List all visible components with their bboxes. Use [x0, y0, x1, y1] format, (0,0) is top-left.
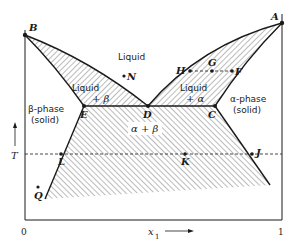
- x-arrow-icon: [188, 229, 194, 233]
- label-liquid-alpha-1: Liquid: [180, 83, 207, 93]
- label-A: A: [270, 11, 279, 22]
- x-max-label: 1: [278, 227, 284, 237]
- phase-diagram: B A E D C H G F L K J N Q Liquid Liquid …: [0, 0, 298, 250]
- point-A: [280, 21, 284, 25]
- label-beta-phase-2: (solid): [31, 115, 59, 125]
- label-H: H: [175, 65, 186, 76]
- label-E: E: [79, 109, 88, 120]
- x-min-label: 0: [21, 227, 27, 237]
- label-alpha-phase-1: α-phase: [230, 94, 267, 104]
- label-alpha-beta: α + β: [131, 123, 158, 134]
- x-axis-subscript: 1: [155, 233, 159, 241]
- label-liquid: Liquid: [118, 52, 145, 62]
- label-Q: Q: [34, 190, 43, 201]
- label-J: J: [254, 147, 262, 158]
- point-D: [146, 104, 150, 108]
- point-E: [82, 104, 86, 108]
- point-F: [230, 69, 234, 73]
- point-Q: [36, 185, 39, 188]
- label-alpha-phase-2: (solid): [233, 105, 261, 115]
- label-B: B: [28, 22, 37, 33]
- label-beta-phase-1: β-phase: [28, 104, 65, 114]
- point-C: [213, 104, 217, 108]
- label-K: K: [180, 156, 191, 167]
- x-axis-label: x: [148, 226, 154, 237]
- label-G: G: [208, 57, 217, 68]
- label-N: N: [126, 71, 137, 82]
- label-L: L: [57, 156, 65, 167]
- y-axis-label: T: [11, 150, 19, 161]
- point-H: [188, 69, 192, 73]
- label-D: D: [142, 109, 152, 120]
- point-B: [23, 33, 27, 37]
- label-C: C: [208, 109, 216, 120]
- point-J: [250, 152, 254, 156]
- label-liquid-beta-2: + β: [92, 93, 110, 104]
- point-G: [210, 69, 214, 73]
- point-N: [122, 74, 125, 77]
- label-F: F: [234, 66, 243, 77]
- label-liquid-alpha-2: + α: [186, 93, 205, 104]
- label-liquid-beta-1: Liquid: [72, 83, 99, 93]
- y-arrow-icon: [13, 122, 17, 128]
